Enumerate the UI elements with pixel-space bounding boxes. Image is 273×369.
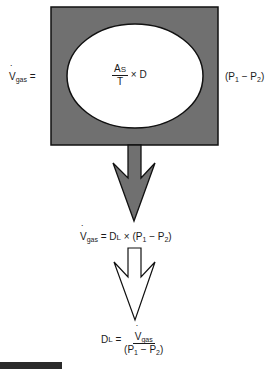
v-dot-symbol: V bbox=[9, 72, 16, 82]
middle-equation: Vgas = DL × (P1 − P2) bbox=[80, 232, 172, 242]
diagram-graphic bbox=[0, 0, 273, 369]
top-equation-inner-term: AS T × D bbox=[112, 64, 147, 87]
bottom-equation: DL = Vgas (P1 − P2) bbox=[101, 325, 163, 355]
open-down-arrow-icon bbox=[114, 248, 155, 320]
top-equation-lhs: Vgas = bbox=[9, 72, 36, 82]
top-equation-pressure-term: (P1 − P2) bbox=[225, 72, 264, 82]
area-over-thickness-fraction: AS T bbox=[112, 64, 128, 87]
shaded-down-arrow-icon bbox=[113, 145, 155, 221]
caption-header-bar bbox=[0, 362, 62, 369]
diffusion-fraction: Vgas (P1 − P2) bbox=[124, 325, 163, 355]
